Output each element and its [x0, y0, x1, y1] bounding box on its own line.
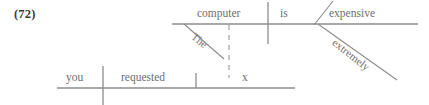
word-verb-requested: requested	[121, 72, 165, 84]
word-subject-you: you	[66, 72, 83, 84]
word-subject-computer: computer	[197, 8, 240, 20]
word-predicate-adjective-expensive: expensive	[329, 8, 375, 20]
word-linking-verb-is: is	[280, 8, 288, 20]
word-direct-object-x: x	[242, 72, 248, 84]
sentence-diagram-figure: (72) computer is expensive The extremely…	[0, 0, 429, 105]
matrix-clause-group	[57, 66, 295, 105]
